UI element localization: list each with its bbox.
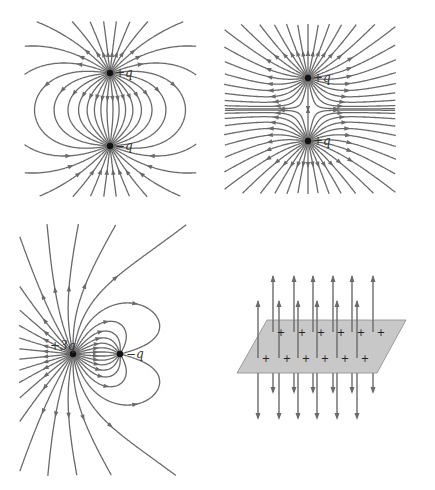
arrowhead-icon — [270, 94, 276, 98]
arrowhead-icon — [97, 373, 103, 377]
arrowhead-icon — [102, 51, 106, 57]
arrowhead-icon — [98, 169, 102, 175]
negative-charge-icon — [107, 143, 113, 149]
charge-label-dipole-positive: +q — [115, 66, 133, 80]
arrow-down-icon — [371, 387, 376, 394]
arrow-up-icon — [350, 275, 355, 282]
arrowhead-icon — [341, 94, 347, 98]
arrow-down-icon — [292, 387, 297, 394]
plus-charge-icon: + — [302, 353, 310, 364]
charge-label-plus-3q: +3q — [50, 339, 76, 353]
arrowhead-icon — [120, 94, 124, 100]
arrowhead-icon — [105, 96, 109, 102]
arrowhead-icon — [321, 52, 326, 58]
positive-charge-icon — [305, 138, 311, 144]
plus-charge-icon: + — [317, 327, 325, 338]
arrowhead-icon — [93, 354, 99, 358]
arrowhead-icon — [118, 169, 122, 175]
arrowhead-icon — [146, 165, 152, 169]
field-line — [73, 357, 111, 475]
arrow-down-icon — [355, 413, 360, 420]
arrow-up-icon — [335, 300, 340, 307]
arrowhead-icon — [297, 161, 301, 167]
arrowhead-icon — [344, 126, 350, 130]
arrowhead-icon — [53, 287, 57, 293]
charge-label-pair-bottom: +q — [313, 134, 331, 148]
arrowhead-icon — [42, 408, 46, 414]
field-line — [310, 25, 342, 76]
arrowhead-icon — [103, 320, 109, 324]
arrowhead-icon — [78, 56, 84, 60]
arrowhead-icon — [119, 51, 124, 57]
plus-charge-icon: + — [361, 353, 369, 364]
arrowhead-icon — [270, 120, 276, 124]
charge-label-pair-top: +q — [313, 71, 331, 85]
plus-charge-icon: + — [337, 327, 345, 338]
arrowhead-icon — [339, 100, 345, 104]
field-line — [298, 144, 308, 193]
arrowhead-icon — [268, 88, 274, 92]
arrowhead-icon — [76, 63, 82, 67]
arrowhead-icon — [66, 413, 70, 419]
arrowhead-icon — [337, 111, 343, 115]
arrowhead-icon — [96, 51, 101, 57]
arrowhead-icon — [337, 104, 343, 108]
field-line — [298, 25, 308, 75]
positive-charge-icon — [107, 70, 113, 76]
charge-label-dipole-negative: −q — [115, 139, 133, 153]
arrowhead-icon — [114, 51, 118, 57]
arrowhead-icon — [93, 346, 99, 350]
field-line — [107, 76, 110, 144]
charge-label-minus-q: −q — [126, 347, 144, 361]
arrowhead-icon — [346, 148, 352, 152]
arrowhead-icon — [315, 50, 319, 56]
arrowhead-icon — [96, 94, 100, 100]
arrow-down-icon — [315, 413, 320, 420]
dipole-panel — [25, 21, 197, 196]
arrowhead-icon — [126, 93, 131, 99]
arrow-up-icon — [256, 300, 261, 307]
arrow-up-icon — [371, 275, 376, 282]
arrowhead-icon — [43, 365, 49, 370]
arrow-up-icon — [355, 300, 360, 307]
arrowhead-icon — [341, 120, 347, 124]
charged-sheet-panel: ++++++++++++ — [237, 275, 406, 420]
arrowhead-icon — [315, 161, 319, 167]
plus-charge-icon: + — [357, 327, 365, 338]
plus-charge-icon: + — [377, 327, 385, 338]
plus-charge-icon: + — [283, 353, 291, 364]
field-line — [309, 144, 319, 193]
arrowhead-icon — [103, 384, 109, 388]
arrowhead-icon — [42, 294, 46, 300]
arrowhead-icon — [275, 104, 281, 108]
plus-charge-icon: + — [277, 327, 285, 338]
arrowhead-icon — [344, 88, 350, 92]
arrow-up-icon — [271, 275, 276, 282]
arrowhead-icon — [93, 350, 99, 354]
arrowhead-icon — [265, 155, 271, 160]
arrowhead-icon — [347, 157, 353, 162]
arrowhead-icon — [306, 162, 310, 168]
arrowhead-icon — [346, 75, 352, 79]
arrowhead-icon — [65, 154, 71, 158]
arrow-down-icon — [296, 413, 301, 420]
field-line — [20, 356, 71, 421]
field-line — [72, 22, 108, 71]
figure-field-lines: ++++++++++++ +q −q +q +q +3q −q — [0, 0, 435, 490]
arrow-up-icon — [296, 300, 301, 307]
arrowhead-icon — [275, 111, 281, 115]
arrow-down-icon — [271, 387, 276, 394]
field-line — [74, 357, 176, 476]
field-line — [74, 225, 187, 351]
arrowhead-icon — [265, 59, 271, 64]
arrow-down-icon — [331, 387, 336, 394]
arrowhead-icon — [67, 165, 73, 169]
unequal-charges-panel — [19, 224, 186, 476]
field-line — [224, 129, 305, 140]
arrowhead-icon — [346, 140, 352, 144]
arrowhead-icon — [306, 50, 310, 56]
arrow-up-icon — [277, 300, 282, 307]
arrowhead-icon — [290, 52, 295, 58]
arrowhead-icon — [43, 338, 49, 343]
arrow-up-icon — [311, 275, 316, 282]
